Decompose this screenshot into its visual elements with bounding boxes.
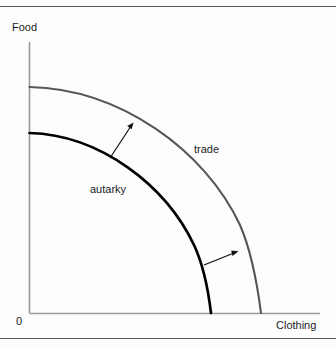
autarky-curve-label: autarky: [90, 183, 126, 195]
expansion-arrow-upper: [110, 123, 134, 159]
y-axis-label: Food: [12, 21, 37, 33]
ppf-trade-diagram: Food 0 Clothing trade autarky: [0, 0, 336, 349]
autarky-curve: [30, 133, 212, 313]
expansion-arrow-lower: [204, 251, 239, 266]
x-axis-label: Clothing: [276, 319, 316, 331]
origin-label: 0: [16, 315, 22, 327]
trade-curve-label: trade: [194, 143, 219, 155]
plot-area: [0, 0, 336, 349]
trade-curve: [30, 87, 262, 313]
